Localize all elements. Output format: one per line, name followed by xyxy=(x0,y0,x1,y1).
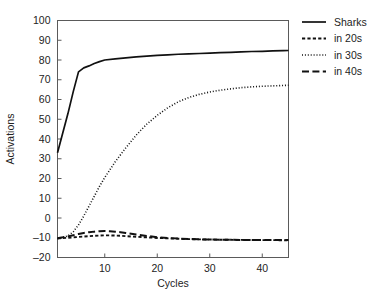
y-tick-label: 40 xyxy=(39,133,51,145)
line-chart: –20–100102030405060708090100 10203040 Cy… xyxy=(0,0,391,299)
y-tick-label: 20 xyxy=(39,172,51,184)
x-tick-label: 40 xyxy=(256,262,268,274)
y-tick-label: –20 xyxy=(33,251,51,263)
y-axis-title: Activations xyxy=(4,114,16,165)
x-tick-label: 20 xyxy=(151,262,163,274)
legend-label-sharks: Sharks xyxy=(334,16,367,28)
legend-label-in-20s: in 20s xyxy=(334,32,362,44)
y-tick-label: 0 xyxy=(45,212,51,224)
y-tick-label: 80 xyxy=(39,54,51,66)
legend-label-in-40s: in 40s xyxy=(334,65,362,77)
x-tick-label: 30 xyxy=(204,262,216,274)
x-tick-label: 10 xyxy=(99,262,111,274)
y-tick-label: 70 xyxy=(39,73,51,85)
y-tick-label: 30 xyxy=(39,152,51,164)
y-tick-label: 50 xyxy=(39,113,51,125)
y-tick-label: 90 xyxy=(39,34,51,46)
y-tick-label: –10 xyxy=(33,231,51,243)
y-tick-label: 60 xyxy=(39,93,51,105)
y-tick-label: 10 xyxy=(39,192,51,204)
x-axis-title: Cycles xyxy=(157,277,189,289)
legend-label-in-30s: in 30s xyxy=(334,49,362,61)
chart-figure: –20–100102030405060708090100 10203040 Cy… xyxy=(0,0,391,299)
y-tick-label: 100 xyxy=(33,14,51,26)
